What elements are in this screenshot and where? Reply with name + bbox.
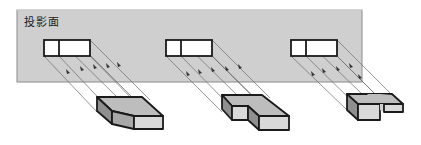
block-1 bbox=[97, 97, 163, 129]
projection-rect-1 bbox=[44, 40, 90, 56]
projection-rect-3 bbox=[291, 40, 337, 56]
projection-diagram: 投影面 bbox=[0, 0, 421, 145]
diagram-canvas bbox=[0, 0, 421, 145]
block-2 bbox=[222, 95, 289, 130]
block-3 bbox=[347, 94, 403, 120]
plane-label: 投影面 bbox=[24, 13, 60, 29]
projection-rect-2 bbox=[166, 40, 212, 56]
